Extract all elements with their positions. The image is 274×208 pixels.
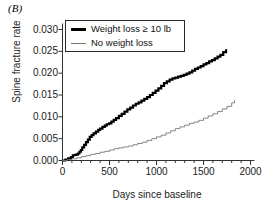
legend-item-no-weight-loss: No weight loss — [71, 36, 153, 50]
x-tick-label: 0 — [43, 167, 83, 177]
series-line-weight-loss — [63, 49, 227, 160]
legend-item-weight-loss: Weight loss ≥ 10 lb — [71, 22, 171, 36]
legend-label-weight-loss: Weight loss ≥ 10 lb — [91, 24, 171, 34]
legend-label-no-weight-loss: No weight loss — [91, 38, 153, 48]
figure-panel-b: (B) Spine fracture rate Days since basel… — [0, 0, 274, 208]
series-line-no-weight-loss — [63, 100, 235, 160]
x-tick-label: 2000 — [231, 167, 271, 177]
x-tick-label: 1500 — [184, 167, 224, 177]
chart-legend: Weight loss ≥ 10 lb No weight loss — [65, 20, 185, 52]
x-tick-label: 500 — [90, 167, 130, 177]
legend-swatch-thick-icon — [71, 28, 86, 31]
legend-swatch-thin-icon — [71, 43, 86, 44]
x-tick-label: 1000 — [137, 167, 177, 177]
